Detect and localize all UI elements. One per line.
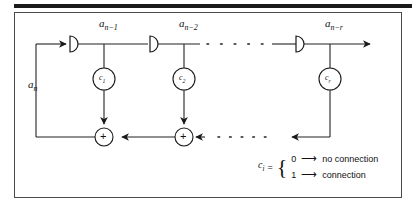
legend-equals: = <box>267 162 272 172</box>
legend-subject: ci <box>258 160 264 173</box>
legend-value-0: 0 <box>291 154 296 164</box>
legend-rows: 0 ⟶ no connection 1 ⟶ connection <box>291 152 378 181</box>
label-input-an: an <box>28 79 37 93</box>
label-coefficient-c2: c2 <box>179 74 185 84</box>
label-tap-an-1: an−1 <box>99 18 118 32</box>
legend-row-0: 0 ⟶ no connection <box>291 152 378 165</box>
label-tap-an-2: an−2 <box>179 18 198 32</box>
delay-element-1-body <box>70 36 78 52</box>
legend-group: ci = { 0 ⟶ no connection 1 ⟶ connection <box>258 152 378 181</box>
adder-2-plus-symbol: + <box>180 131 186 142</box>
label-tap-an-r: an−r <box>325 18 343 32</box>
label-coefficient-cr: cr <box>325 74 331 84</box>
right-arrow-icon: ⟶ <box>301 152 317 165</box>
legend-value-1: 1 <box>291 170 296 180</box>
adder-1-plus-symbol: + <box>100 131 106 142</box>
legend-meaning-0: no connection <box>322 154 378 164</box>
label-coefficient-c1: c1 <box>99 74 105 84</box>
legend-brace: { <box>277 158 288 176</box>
delay-element-r-body <box>296 36 304 52</box>
figure-root: an an−1 an−2 an−r c1 c2 cr + + ci = { 0 … <box>0 0 416 210</box>
legend-row-1: 1 ⟶ connection <box>291 168 378 181</box>
delay-element-2-body <box>150 36 158 52</box>
right-arrow-icon: ⟶ <box>301 168 317 181</box>
legend-meaning-1: connection <box>322 170 366 180</box>
